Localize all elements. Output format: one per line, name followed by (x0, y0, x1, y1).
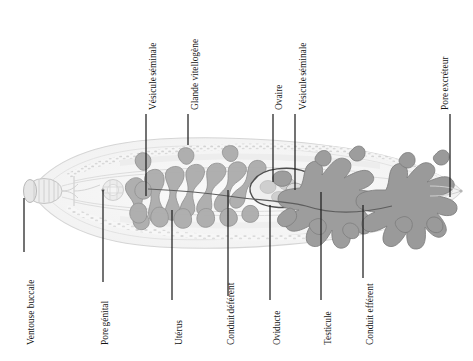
label-ovaire: Ovaire (274, 84, 284, 110)
label-text-pore-excreteur-line2: excréteur (440, 57, 450, 92)
label-text-glande-vitellogene-line1: Glande vitellogène (190, 39, 200, 110)
fluke-anatomy-drawing (0, 0, 473, 361)
label-text-pore-genital-line2: génital (100, 301, 110, 327)
label-text-vesicule-seminale-top-line1: Vésicule (148, 77, 158, 110)
label-oviducte: Oviducte (272, 311, 282, 345)
label-uterus: Utérus (174, 320, 184, 345)
label-ventouse-buccale: Ventouse buccale (26, 280, 36, 345)
label-text-conduit-deferent-line1: Conduit (226, 315, 236, 345)
ventral-sucker (103, 180, 124, 201)
label-text-conduit-deferent-line2: déférent (226, 283, 236, 314)
label-conduit-efferent: Conduit efférent (365, 283, 375, 345)
label-text-ventouse-buccale-line1: Ventouse buccale (26, 280, 36, 345)
label-text-uterus-line1: Utérus (174, 320, 184, 345)
label-vesicule-seminale-mid: Vésiculeséminale (298, 42, 308, 110)
label-pore-excreteur: Poreexcréteur (440, 57, 450, 110)
label-text-vesicule-seminale-mid-line1: Vésicule (298, 77, 308, 110)
label-vesicule-seminale-top: Vésiculeséminale (148, 42, 158, 110)
anatomical-figure: VésiculeséminaleGlande vitellogèneOvaire… (0, 0, 473, 361)
label-text-conduit-efferent-line1: Conduit efférent (365, 283, 375, 345)
label-pore-genital: Poregénital (100, 301, 110, 345)
label-testicule: Testicule (323, 311, 333, 345)
label-text-pore-excreteur-line1: Pore (440, 93, 450, 110)
label-text-oviducte-line1: Oviducte (272, 311, 282, 345)
label-conduit-deferent: Conduitdéférent (226, 283, 236, 345)
label-text-testicule-line1: Testicule (323, 311, 333, 345)
label-glande-vitellogene: Glande vitellogène (190, 39, 200, 110)
label-text-vesicule-seminale-mid-line2: séminale (298, 42, 308, 75)
label-text-vesicule-seminale-top-line2: séminale (148, 42, 158, 75)
seminal-vesicle-anterior (135, 181, 152, 199)
label-text-pore-genital-line1: Pore (100, 328, 110, 345)
label-text-ovaire-line1: Ovaire (274, 84, 284, 110)
